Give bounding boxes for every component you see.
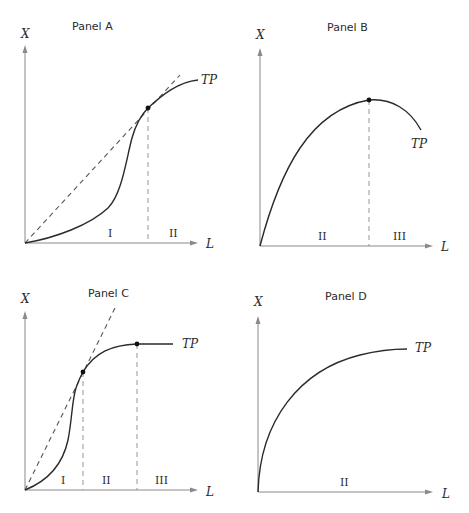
panel-c-tp-label: TP: [182, 337, 199, 351]
panel-c-tangent-ray: [25, 308, 115, 490]
figure-canvas: Panel A X L TP I II Panel B X L: [0, 0, 469, 513]
panel-a-title: Panel A: [72, 20, 113, 33]
panel-b-tp-curve: [260, 100, 421, 246]
panel-a-tp-label: TP: [201, 73, 218, 87]
panel-b-maximum-point: [367, 98, 372, 103]
panel-b-title: Panel B: [327, 21, 368, 34]
panel-d-x-arrow-icon: [425, 490, 433, 495]
panel-a-y-axis-label: X: [20, 27, 30, 41]
panel-a-x-axis-label: L: [205, 237, 214, 251]
panel-a-stage-ii-label: II: [169, 227, 178, 240]
panel-d-y-axis-label: X: [253, 295, 263, 309]
panel-d-stage-ii-label: II: [340, 476, 349, 489]
panel-b-stage-iii-label: III: [393, 230, 406, 243]
panel-b-y-axis-label: X: [255, 28, 265, 42]
panel-c-stage-iii-label: III: [155, 474, 168, 487]
panel-d-y-arrow-icon: [256, 316, 261, 324]
panel-b-stage-ii-label: II: [318, 230, 327, 243]
panel-b-tp-label: TP: [411, 137, 428, 151]
panel-c-title: Panel C: [88, 287, 129, 300]
panel-c-x-arrow-icon: [190, 488, 198, 493]
panel-d-tp-curve: [258, 349, 407, 492]
panel-c-stage-ii-label: II: [102, 474, 111, 487]
panel-d: Panel D X L TP II: [253, 290, 450, 501]
panel-c: Panel C X L TP I II III: [20, 287, 214, 499]
panel-a-y-arrow-icon: [23, 45, 28, 53]
panel-d-tp-label: TP: [415, 341, 432, 355]
panel-c-tangency-point: [81, 370, 86, 375]
panel-c-y-arrow-icon: [23, 311, 28, 319]
panel-c-stage-i-label: I: [61, 474, 65, 487]
panel-d-x-axis-label: L: [441, 487, 450, 501]
panel-c-x-axis-label: L: [205, 485, 214, 499]
panel-b-x-axis-label: L: [440, 240, 449, 254]
panel-b: Panel B X L TP II III: [255, 21, 449, 254]
panel-a-x-arrow-icon: [190, 241, 198, 246]
panel-a-tangency-point: [146, 106, 151, 111]
panel-d-title: Panel D: [325, 290, 367, 303]
panel-a-tp-curve: [25, 80, 198, 243]
panel-c-tp-curve: [25, 344, 173, 490]
figure-svg: Panel A X L TP I II Panel B X L: [0, 0, 469, 513]
panel-c-y-axis-label: X: [20, 292, 30, 306]
panel-a: Panel A X L TP I II: [20, 20, 218, 251]
panel-c-maximum-point: [135, 342, 140, 347]
panel-a-stage-i-label: I: [108, 227, 112, 240]
panel-b-y-arrow-icon: [258, 48, 263, 56]
panel-b-x-arrow-icon: [425, 244, 433, 249]
